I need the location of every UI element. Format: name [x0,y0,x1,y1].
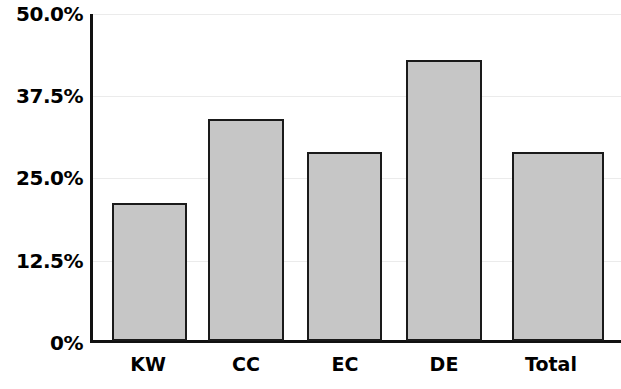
bar-de [406,60,482,341]
bar-chart: 50.0% 37.5% 25.0% 12.5% 0% KW CC EC DE T… [0,0,621,389]
x-axis-tick-label-cc: CC [232,355,260,374]
bar-total [512,152,604,341]
plot-area [90,14,621,343]
bar-kw [112,203,187,341]
x-axis-tick-label-ec: EC [332,355,359,374]
x-axis-tick-label-total: Total [525,355,577,374]
y-axis-tick-label: 0% [0,333,83,353]
y-axis-tick-label: 12.5% [0,251,83,271]
gridline [90,14,621,15]
y-axis-tick-label: 25.0% [0,168,83,188]
bar-ec [307,152,382,341]
y-axis-line [90,14,93,343]
y-axis-tick-label: 50.0% [0,4,83,24]
x-axis-tick-label-kw: KW [130,355,166,374]
x-axis-tick-label-de: DE [430,355,459,374]
y-axis-tick-label: 37.5% [0,86,83,106]
gridline [90,96,621,97]
bar-cc [208,119,284,341]
